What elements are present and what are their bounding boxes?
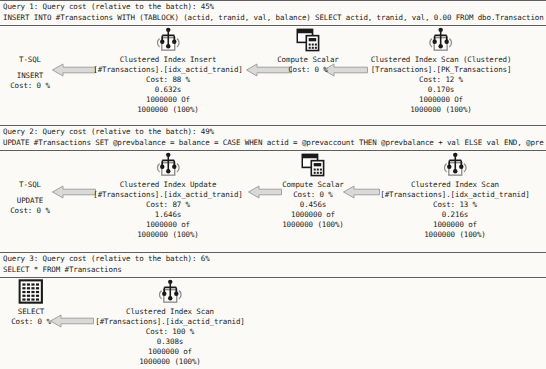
node-label-line: Cost: 0 % (11, 317, 51, 327)
node-label-line: 1000000 of (93, 220, 242, 230)
query-3-statement: SELECT * FROM #Transactions (3, 265, 543, 276)
node-label-line: 1000000 of (95, 347, 244, 357)
node-label-line: [#Transactions].[idx_actid_tranid] (95, 317, 244, 327)
node-label-line: Cost: 87 % (93, 200, 242, 210)
node-label-line: 1000000 (100%) (95, 357, 244, 367)
clustered-index-scan-node[interactable]: Clustered Index Scan (Clustered)[Transac… (371, 27, 512, 115)
node-label-line: 1000000 (100%) (93, 105, 242, 115)
node-label-line: Clustered Index Scan (380, 180, 529, 190)
query-3-cost-header: Query 3: Query cost (relative to the bat… (3, 254, 543, 265)
result-table-icon (11, 279, 51, 307)
node-label-line: Cost: 88 % (93, 75, 242, 85)
row-flow-arrow[interactable] (50, 314, 94, 328)
node-label-line: 1000000 (100%) (282, 220, 344, 230)
node-label-line: Cost: 100 % (95, 327, 244, 337)
query-1-cost-header: Query 1: Query cost (relative to the bat… (3, 2, 543, 13)
query-section-1: Query 1: Query cost (relative to the bat… (0, 0, 546, 125)
compute-scalar-icon (277, 27, 339, 55)
node-label-line: 1.646s (93, 210, 242, 220)
node-label-line: 1000000 of (282, 210, 344, 220)
clustered-index-icon (93, 27, 242, 55)
row-flow-arrow[interactable] (52, 185, 96, 199)
query-section-3: Query 3: Query cost (relative to the bat… (0, 252, 546, 368)
tsql-insert-root-node[interactable]: T-SQLINSERTCost: 0 % (10, 27, 50, 91)
clustered-index-icon (95, 279, 244, 307)
tsql-icon (10, 152, 50, 180)
node-label-line: Cost: 0 % (277, 65, 339, 75)
query-2-statement: UPDATE #Transactions SET @prevbalance = … (3, 138, 543, 149)
node-label-line: INSERT (10, 71, 50, 81)
row-flow-arrow[interactable] (248, 185, 282, 199)
compute-scalar-icon (282, 152, 344, 180)
compute-scalar-node[interactable]: Compute ScalarCost: 0 % (277, 27, 339, 75)
query-1-statement: INSERT INTO #Transactions WITH (TABLOCK)… (3, 13, 543, 24)
clustered-index-scan-node[interactable]: Clustered Index Scan[#Transactions].[idx… (380, 152, 529, 240)
node-label-line: T-SQL (10, 180, 50, 190)
clustered-index-scan-node[interactable]: Clustered Index Scan[#Transactions].[idx… (95, 279, 244, 367)
clustered-index-icon (380, 152, 529, 180)
query-2-plan-canvas: T-SQLUPDATECost: 0 %Clustered Index Upda… (0, 151, 546, 252)
node-label-line: 1000000 (100%) (93, 230, 242, 240)
clustered-index-insert-node[interactable]: Clustered Index Insert[#Transactions].[i… (93, 27, 242, 115)
node-label-line: Cost: 13 % (380, 200, 529, 210)
node-label-line: [Transactions].[PK_Transactions] (371, 65, 512, 75)
node-label-line: 0.216s (380, 210, 529, 220)
node-label-line: 0.632s (93, 85, 242, 95)
clustered-index-icon (93, 152, 242, 180)
node-label-line: [#Transactions].[idx_actid_tranid] (93, 190, 242, 200)
query-3-plan-canvas: SELECTCost: 0 %Clustered Index Scan[#Tra… (0, 278, 546, 368)
node-label-line: 0.456s (282, 200, 344, 210)
tsql-update-root-node[interactable]: T-SQLUPDATECost: 0 % (10, 152, 50, 216)
node-label-line: 0.308s (95, 337, 244, 347)
node-label-line: Clustered Index Scan (95, 307, 244, 317)
node-label-line: Compute Scalar (277, 55, 339, 65)
node-label-line: Clustered Index Update (93, 180, 242, 190)
node-label-line: 1000000 (100%) (380, 230, 529, 240)
compute-scalar-node[interactable]: Compute ScalarCost: 0 %0.456s1000000 of1… (282, 152, 344, 230)
node-label-line: Cost: 0 % (10, 81, 50, 91)
node-label-line: UPDATE (10, 196, 50, 206)
clustered-index-icon (371, 27, 512, 55)
node-label-line: Cost: 0 % (10, 206, 50, 216)
query-2-cost-header: Query 2: Query cost (relative to the bat… (3, 127, 543, 138)
query-3-text-block: Query 3: Query cost (relative to the bat… (0, 253, 546, 278)
execution-plan-viewer: Query 1: Query cost (relative to the bat… (0, 0, 546, 369)
node-label-line: 1000000 Of (93, 95, 242, 105)
clustered-index-update-node[interactable]: Clustered Index Update[#Transactions].[i… (93, 152, 242, 240)
node-label-line: 1000000 of (380, 220, 529, 230)
select-result-root-node[interactable]: SELECTCost: 0 % (11, 279, 51, 327)
query-1-plan-canvas: T-SQLINSERTCost: 0 %Clustered Index Inse… (0, 26, 546, 125)
tsql-icon (10, 27, 50, 55)
node-label-line: Clustered Index Scan (Clustered) (371, 55, 512, 65)
node-label-line: 1000000 Of (371, 95, 512, 105)
node-label-line: Cost: 12 % (371, 75, 512, 85)
row-flow-arrow[interactable] (343, 185, 380, 199)
node-label-line: 0.170s (371, 85, 512, 95)
query-section-2: Query 2: Query cost (relative to the bat… (0, 125, 546, 252)
node-label-line: Clustered Index Insert (93, 55, 242, 65)
node-label-line: [#Transactions].[idx_actid_tranid] (93, 65, 242, 75)
node-label-line: 1000000 (100%) (371, 105, 512, 115)
node-label-line: SELECT (11, 307, 51, 317)
query-2-text-block: Query 2: Query cost (relative to the bat… (0, 126, 546, 151)
node-label-line: [#Transactions].[idx_actid_tranid] (380, 190, 529, 200)
row-flow-arrow[interactable] (52, 63, 96, 77)
node-label-line: T-SQL (10, 55, 50, 65)
query-1-text-block: Query 1: Query cost (relative to the bat… (0, 1, 546, 26)
node-label-line: Compute Scalar (282, 180, 344, 190)
node-label-line: Cost: 0 % (282, 190, 344, 200)
